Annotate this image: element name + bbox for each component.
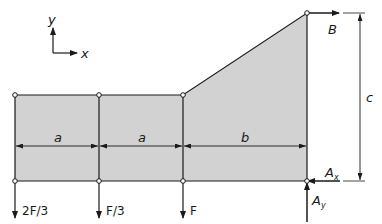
x-axis-label: x [80,46,89,61]
dimension-a-2: a [138,130,146,145]
node-bottom-2 [97,179,102,184]
truss-diagram: y x a a b c 2F/3 F/3 F B Ax Ay [0,0,382,224]
y-axis-label: y [47,12,56,27]
applied-loads: 2F/3 F/3 F [15,181,197,218]
load-label-3: F [190,204,197,218]
structure-body [15,13,307,181]
node-bottom-3 [181,179,186,184]
dimension-b: b [241,130,249,145]
node-top-mid [97,93,102,98]
node-top-left [13,93,18,98]
node-b [305,11,310,16]
vertical-dimension: c [343,13,373,181]
reaction-ax-label: Ax [324,165,339,182]
node-a [305,179,310,184]
load-label-2: F/3 [106,204,125,218]
reactions: B Ax Ay [307,13,340,222]
dimension-c: c [366,90,373,105]
node-top-right [181,93,186,98]
coordinate-axes: y x [47,12,89,61]
reaction-b-label: B [328,22,337,37]
reaction-ay-label: Ay [311,193,326,210]
dimension-a-1: a [54,130,62,145]
load-label-1: 2F/3 [22,204,48,218]
node-bottom-1 [13,179,18,184]
